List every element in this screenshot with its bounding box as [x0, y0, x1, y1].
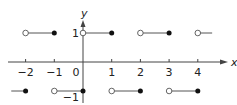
x-tick-label: 2	[137, 66, 144, 79]
x-tick-label: −1	[46, 66, 62, 79]
axis-labels: xy−2−1012341−1	[17, 7, 237, 104]
step-segment	[195, 30, 212, 36]
x-tick-label: 1	[108, 66, 115, 79]
open-endpoint-icon	[166, 88, 172, 94]
x-tick-label: 0	[73, 66, 80, 79]
x-axis-arrow-icon	[220, 60, 228, 65]
x-tick-label: 3	[166, 66, 173, 79]
open-endpoint-icon	[80, 30, 86, 36]
step-segment	[109, 88, 143, 94]
step-segment	[166, 88, 200, 94]
step-segment	[23, 30, 57, 36]
closed-endpoint-icon	[109, 31, 114, 36]
y-axis-arrow-icon	[81, 20, 86, 27]
closed-endpoint-icon	[52, 31, 57, 36]
open-endpoint-icon	[138, 30, 144, 36]
step-segment	[80, 30, 114, 36]
open-endpoint-icon	[109, 88, 115, 94]
plot-area: xy−2−1012341−1	[0, 0, 237, 105]
open-endpoint-icon	[23, 30, 29, 36]
closed-endpoint-icon	[167, 31, 172, 36]
y-tick-label: 1	[72, 27, 79, 40]
x-tick-label: 4	[194, 66, 201, 79]
open-endpoint-icon	[195, 30, 201, 36]
open-endpoint-icon	[52, 88, 58, 94]
closed-endpoint-icon	[81, 89, 86, 94]
step-segment	[11, 89, 28, 94]
y-axis-label: y	[80, 7, 88, 20]
step-function-chart: xy−2−1012341−1	[0, 0, 237, 105]
closed-endpoint-icon	[138, 89, 143, 94]
step-segment	[138, 30, 172, 36]
y-tick-label: −1	[63, 91, 79, 104]
x-tick-label: −2	[17, 66, 33, 79]
x-axis-label: x	[230, 56, 237, 69]
closed-endpoint-icon	[195, 89, 200, 94]
closed-endpoint-icon	[23, 89, 28, 94]
